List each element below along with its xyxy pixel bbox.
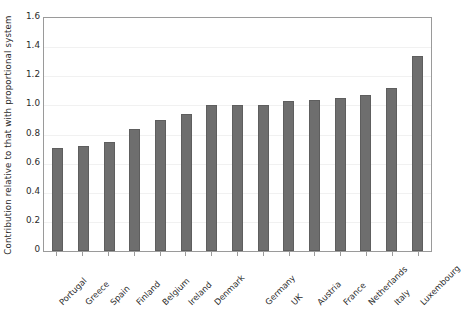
plot-area [43, 17, 432, 252]
y-axis-tick-labels: 00.20.40.60.81.01.21.41.6 [18, 16, 40, 252]
bar [232, 105, 243, 251]
x-axis-label-slot: Spain [96, 256, 122, 315]
bar-slot [122, 18, 148, 251]
bar-slot [302, 18, 328, 251]
y-axis-tick-label: 0 [18, 244, 40, 254]
x-axis-label-slot: UK [276, 256, 302, 315]
bar [258, 105, 269, 251]
y-axis-title: Contribution relative to that with propo… [0, 16, 16, 254]
y-axis-tick-label: 1.2 [18, 69, 40, 79]
bar-slot [71, 18, 97, 251]
bar-slot [327, 18, 353, 251]
bar-slot [250, 18, 276, 251]
bar [104, 142, 115, 251]
bar-slot [173, 18, 199, 251]
bar [181, 114, 192, 251]
x-axis-label-slot: Greece [70, 256, 96, 315]
x-axis-category-label: Luxembourg [418, 263, 462, 307]
bar-slot [225, 18, 251, 251]
x-axis-label-slot: Portugal [44, 256, 70, 315]
clipped-top-artifact: …… [95, 0, 295, 4]
bar [206, 105, 217, 251]
bar-slot [199, 18, 225, 251]
x-axis-label-slot: Italy [379, 256, 405, 315]
y-axis-tick-label: 1.4 [18, 40, 40, 50]
y-axis-title-text: Contribution relative to that with propo… [3, 15, 13, 254]
bar-slot [379, 18, 405, 251]
x-axis-label-slot: France [328, 256, 354, 315]
y-axis-tick-label: 1.0 [18, 98, 40, 108]
bar [78, 146, 89, 251]
y-axis-tick-label: 1.6 [18, 11, 40, 21]
y-axis-tick-label: 0.6 [18, 157, 40, 167]
bars-layer [44, 18, 431, 251]
bar-slot [45, 18, 71, 251]
y-axis-tick-label: 0.4 [18, 186, 40, 196]
x-axis-label-slot: Ireland [173, 256, 199, 315]
x-axis-category-labels: PortugalGreeceSpainFinlandBelgiumIreland… [43, 256, 432, 315]
x-axis-label-slot: Luxembourg [405, 256, 431, 315]
bar [360, 95, 371, 251]
x-axis-label-slot: Denmark [199, 256, 225, 315]
bar [129, 129, 140, 251]
x-axis-label-slot: Germany [250, 256, 276, 315]
bar-slot [276, 18, 302, 251]
bar [386, 88, 397, 251]
x-axis-label-slot: Austria [302, 256, 328, 315]
bar [52, 148, 63, 251]
bar-slot [96, 18, 122, 251]
bar-slot [404, 18, 430, 251]
bar [155, 120, 166, 251]
x-axis-label-slot: Netherlands [354, 256, 380, 315]
x-axis-label-slot: Finland [121, 256, 147, 315]
bar [335, 98, 346, 251]
bar [283, 101, 294, 251]
y-axis-tick-label: 0.8 [18, 128, 40, 138]
bar [412, 56, 423, 251]
y-axis-tick-label: 0.2 [18, 215, 40, 225]
bar [309, 100, 320, 251]
x-axis-label-slot [225, 256, 251, 315]
x-axis-label-slot: Belgium [147, 256, 173, 315]
bar-slot [148, 18, 174, 251]
bar-slot [353, 18, 379, 251]
